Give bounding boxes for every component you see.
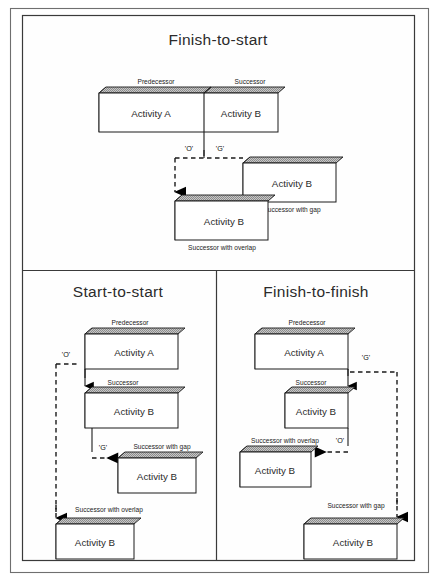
marker-gap-fts: 'G' bbox=[216, 144, 225, 153]
panel-title-finish-to-finish: Finish-to-finish bbox=[263, 283, 369, 300]
bar-label-activity-b-gap-sts: Activity B bbox=[137, 471, 178, 482]
bar-label-activity-b-ftf: Activity B bbox=[296, 406, 337, 417]
caption-successor-with-gap-fts: Successor with gap bbox=[263, 206, 321, 214]
caption-successor-with-gap-sts: Successor with gap bbox=[133, 443, 191, 451]
fts-successor-overlap-bar: Activity B bbox=[175, 195, 275, 240]
sts-predecessor-bar: Activity A bbox=[85, 328, 185, 369]
marker-overlap-ftf: 'O' bbox=[336, 436, 345, 445]
marker-overlap-sts: 'O' bbox=[62, 350, 71, 359]
caption-successor-with-overlap-sts: Successor with overlap bbox=[75, 506, 143, 514]
caption-predecessor-sts: Predecessor bbox=[111, 319, 149, 326]
panel-title-start-to-start: Start-to-start bbox=[73, 283, 164, 300]
fts-predecessor-successor-bar: Activity A Activity B bbox=[99, 87, 285, 132]
ftf-successor-overlap-bar: Activity B bbox=[240, 446, 318, 487]
sts-successor-gap-bar: Activity B bbox=[118, 452, 203, 493]
marker-gap-sts: 'G' bbox=[99, 443, 108, 452]
bar-label-activity-b: Activity B bbox=[221, 108, 262, 119]
ftf-successor-bar: Activity B bbox=[285, 387, 355, 428]
caption-successor-ftf: Successor bbox=[296, 379, 328, 386]
sts-successor-bar: Activity B bbox=[85, 387, 185, 428]
bar-label-activity-b-overlap-ftf: Activity B bbox=[255, 465, 296, 476]
bar-label-activity-a-sts: Activity A bbox=[114, 347, 154, 358]
bar-label-activity-b-sts: Activity B bbox=[114, 406, 155, 417]
marker-gap-ftf: 'G' bbox=[362, 353, 371, 362]
ftf-predecessor-bar: Activity A bbox=[255, 328, 355, 369]
caption-successor-sts: Successor bbox=[108, 379, 140, 386]
bar-label-activity-a: Activity A bbox=[131, 108, 171, 119]
panel-title-finish-to-start: Finish-to-start bbox=[168, 31, 268, 48]
bar-label-activity-b-gap: Activity B bbox=[272, 178, 313, 189]
caption-predecessor: Predecessor bbox=[137, 78, 175, 85]
sts-successor-overlap-bar: Activity B bbox=[56, 518, 141, 559]
ftf-successor-gap-bar: Activity B bbox=[304, 518, 404, 559]
bar-label-activity-a-ftf: Activity A bbox=[284, 347, 324, 358]
marker-overlap-fts: 'O' bbox=[185, 144, 194, 153]
caption-predecessor-ftf: Predecessor bbox=[288, 319, 326, 326]
bar-label-activity-b-gap-ftf: Activity B bbox=[333, 537, 374, 548]
bar-label-activity-b-overlap: Activity B bbox=[204, 216, 245, 227]
caption-successor-with-overlap-fts: Successor with overlap bbox=[188, 244, 256, 252]
caption-successor-with-overlap-ftf: Successor with overlap bbox=[251, 437, 319, 445]
bar-label-activity-b-overlap-sts: Activity B bbox=[75, 537, 116, 548]
caption-successor-with-gap-ftf: Successor with gap bbox=[327, 502, 385, 510]
caption-successor: Successor bbox=[235, 78, 267, 85]
precedence-relationships-diagram: Finish-to-start Predecessor Successor Ac… bbox=[0, 0, 436, 581]
